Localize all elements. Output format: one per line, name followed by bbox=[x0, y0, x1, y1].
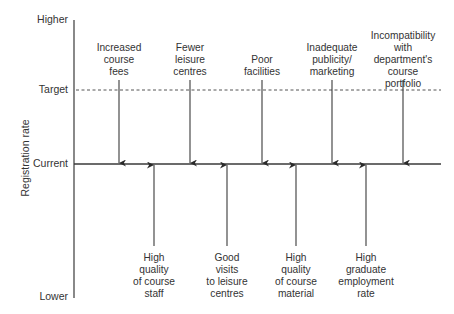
driving-force-label: High quality of course staff bbox=[133, 252, 175, 300]
restraining-force-label: Poor facilities bbox=[244, 54, 280, 78]
driving-force-label: High graduate employment rate bbox=[338, 252, 394, 300]
restraining-force-label: Fewer leisure centres bbox=[173, 42, 206, 78]
restraining-force-label: Inadequate publicity/ marketing bbox=[307, 42, 358, 78]
y-axis-label: Registration rate bbox=[19, 108, 31, 208]
level-label-higher: Higher bbox=[8, 13, 68, 25]
level-label-current: Current bbox=[8, 157, 68, 169]
driving-force-label: Good visits to leisure centres bbox=[206, 252, 247, 300]
level-label-lower: Lower bbox=[8, 290, 68, 302]
restraining-force-label: Incompatibility with department's course… bbox=[371, 30, 436, 90]
level-label-target: Target bbox=[8, 83, 68, 95]
restraining-force-label: Increased course fees bbox=[97, 42, 142, 78]
driving-force-label: High quality of course material bbox=[275, 252, 317, 300]
